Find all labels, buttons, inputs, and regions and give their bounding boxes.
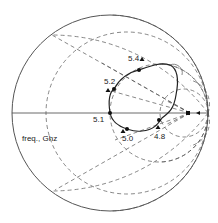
label-5-2: 5.2 [104, 77, 116, 86]
label-5-0: 5.0 [122, 134, 134, 143]
label-5-1: 5.1 [93, 115, 105, 124]
triangle-markers [106, 57, 201, 133]
freq-label: freq., Ghz [22, 134, 57, 143]
smith-chart: 5.4 5.2 5.1 5.0 4.8 freq., Ghz [0, 0, 218, 223]
end-arrow-icon [196, 111, 200, 115]
radial-lines [52, 35, 190, 190]
label-5-4: 5.4 [128, 54, 140, 63]
label-4-8: 4.8 [154, 132, 166, 141]
